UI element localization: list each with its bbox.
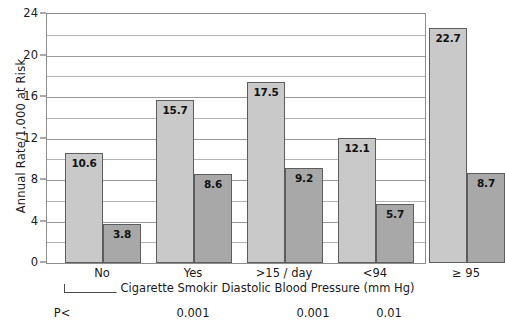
bar-value-label: 17.5 [248, 86, 284, 98]
bar-value-label: 15.7 [157, 104, 193, 116]
gridline-18 [47, 76, 425, 77]
gridline-20 [47, 56, 425, 57]
x-tick-label-dbp-ge95: ≥ 95 [452, 266, 480, 280]
y-tick-label-20: 20 [4, 48, 38, 62]
bar-value-label: 12.1 [339, 142, 375, 154]
x-tick-label-dbp-lt94: <94 [363, 266, 387, 280]
bar-over15-light: 17.5 [247, 82, 285, 264]
plot-area: 10.6 3.8 15.7 8.6 17.5 9.2 12.1 5.7 22.7 [46, 13, 426, 264]
p-value-smoking: 0.001 [177, 306, 210, 320]
bar-value-label: 8.7 [468, 177, 504, 189]
group-title-dbp: Diastolic Blood Pressure (mm Hg) [218, 281, 419, 295]
p-value-dbp-ge95: 0.01 [376, 306, 402, 320]
bar-over15-dark: 9.2 [285, 168, 323, 263]
bar-dbp-ge95-dark: 8.7 [467, 173, 505, 263]
bar-value-label: 9.2 [286, 172, 322, 184]
bar-value-label: 22.7 [430, 32, 466, 44]
y-tick-label-16: 16 [4, 89, 38, 103]
y-tick-label-0: 0 [4, 255, 38, 269]
bar-yes-light: 15.7 [156, 100, 194, 263]
y-tick-label-8: 8 [4, 172, 38, 186]
bar-no-dark: 3.8 [103, 224, 141, 263]
y-tick-label-12: 12 [4, 131, 38, 145]
y-tick-label-24: 24 [4, 6, 38, 20]
gridline-16 [47, 97, 425, 98]
x-tick-label-no: No [94, 266, 110, 280]
p-value-dbp-lt94: 0.001 [297, 306, 330, 320]
bar-no-light: 10.6 [65, 153, 103, 263]
bar-dbp-lt94-dark: 5.7 [376, 204, 414, 263]
y-tick-label-4: 4 [4, 214, 38, 228]
bar-yes-dark: 8.6 [194, 174, 232, 263]
bar-value-label: 3.8 [104, 228, 140, 240]
bar-dbp-lt94-light: 12.1 [338, 138, 376, 264]
bar-value-label: 10.6 [66, 157, 102, 169]
bar-value-label: 5.7 [377, 208, 413, 220]
x-tick-label-over15: >15 / day [256, 266, 313, 280]
bar-dbp-ge95-light: 22.7 [429, 28, 467, 263]
gridline-22 [47, 35, 425, 36]
bar-value-label: 8.6 [195, 178, 231, 190]
gridline-14 [47, 118, 425, 119]
p-value-row-label: P< [54, 306, 71, 320]
x-tick-label-yes: Yes [184, 266, 203, 280]
group-title-smoking: Cigarette Smoking [117, 281, 232, 295]
